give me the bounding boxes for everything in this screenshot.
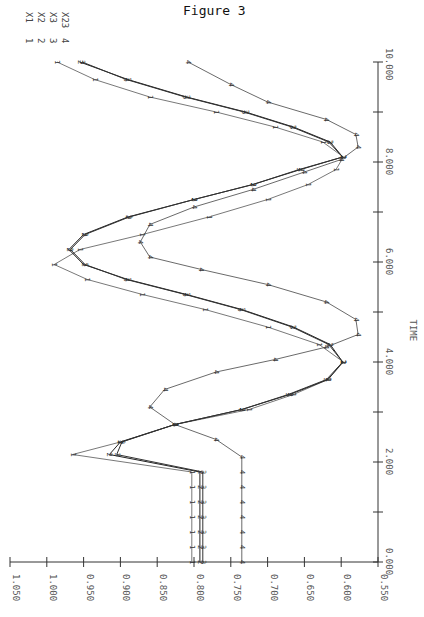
series-x23-marker: 4: [146, 405, 154, 409]
series-x1-marker: 1: [50, 263, 58, 267]
value-tick-label: 1.000: [48, 574, 58, 601]
series-x3-marker: 3: [325, 140, 333, 144]
series-x23-marker: 4: [322, 300, 330, 304]
series-x23-marker: 4: [337, 158, 345, 162]
series-x3-marker: 3: [118, 440, 126, 444]
legend-label: X23: [60, 12, 70, 28]
series-x1-marker: 1: [76, 248, 84, 252]
value-tick-label: 0.550: [379, 574, 389, 601]
value-tick-label: 0.800: [195, 574, 205, 601]
legend-number: 4: [60, 38, 70, 43]
series-x3-marker: 3: [66, 248, 74, 252]
value-tick-label: 0.650: [305, 574, 315, 601]
series-x3-marker: 3: [288, 125, 296, 129]
series-x3-marker: 3: [199, 545, 207, 549]
time-tick-label: 8.000: [384, 148, 394, 175]
series-x23-marker: 4: [249, 188, 257, 192]
legend-number: 3: [48, 38, 58, 43]
series-x1-marker: 1: [201, 308, 209, 312]
series-x1-marker: 1: [188, 545, 196, 549]
series-x23-marker: 4: [184, 60, 192, 64]
series-x23-marker: 4: [352, 133, 360, 137]
series-x23-marker: 4: [161, 388, 169, 392]
series-x1-marker: 1: [188, 500, 196, 504]
legend-number: 1: [24, 38, 34, 43]
time-axis-title: TIME: [408, 320, 418, 342]
time-tick-label: 6.000: [384, 248, 394, 275]
series-x3-marker: 3: [249, 183, 257, 187]
series-x1-marker: 1: [264, 325, 272, 329]
series-x3-marker: 3: [236, 308, 244, 312]
series-x1-marker: 1: [69, 453, 77, 457]
series-x3-marker: 3: [199, 470, 207, 474]
series-x3-marker: 3: [199, 560, 207, 564]
time-tick-label: 10.000: [384, 48, 394, 81]
series-x3-marker: 3: [322, 378, 330, 382]
series-x23-marker: 4: [227, 83, 235, 87]
series-x1-marker: 1: [188, 530, 196, 534]
series-x3-marker: 3: [181, 95, 189, 99]
legend-label: X1: [24, 12, 34, 23]
series-x1-marker: 1: [146, 95, 154, 99]
series-x23-marker: 4: [238, 470, 246, 474]
series-x23-marker: 4: [146, 255, 154, 259]
series-x3-marker: 3: [181, 293, 189, 297]
series-x23-marker: 4: [171, 423, 179, 427]
chart-legend: 1X12X23X34X23: [24, 12, 70, 43]
legend-number: 2: [36, 38, 46, 43]
series-x1-marker: 1: [332, 168, 340, 172]
series-x2-marker: 2: [105, 453, 113, 457]
series-x3-marker: 3: [122, 278, 130, 282]
series-x3-marker: 3: [78, 60, 86, 64]
series-x23-marker: 4: [352, 318, 360, 322]
series-x3-marker: 3: [199, 485, 207, 489]
series-x23-marker: 4: [212, 438, 220, 442]
series-x1-marker: 1: [83, 278, 91, 282]
plot-area: 1111111111111111111111111111111112222222…: [50, 60, 362, 564]
value-tick-label: 0.900: [121, 574, 131, 601]
series-x23-marker: 4: [271, 358, 279, 362]
series-x1-marker: 1: [53, 60, 61, 64]
series-x1-marker: 1: [315, 343, 323, 347]
series-x3-marker: 3: [339, 360, 347, 364]
series-x1-marker: 1: [212, 110, 220, 114]
line-chart: 1.0501.0000.9500.9000.8500.8000.7500.700…: [0, 0, 424, 617]
time-tick-label: 4.000: [384, 348, 394, 375]
series-x3-marker: 3: [199, 530, 207, 534]
series-x3-marker: 3: [284, 393, 292, 397]
series-x3-marker: 3: [288, 325, 296, 329]
series-x23-marker: 4: [300, 170, 308, 174]
series-x3-marker: 3: [240, 110, 248, 114]
series-x23-marker: 4: [136, 240, 144, 244]
series-x23-marker: 4: [197, 268, 205, 272]
series-x23-marker: 4: [322, 118, 330, 122]
series-x3-marker: 3: [190, 198, 198, 202]
value-tick-label: 0.700: [269, 574, 279, 601]
series-x3-marker: 3: [199, 515, 207, 519]
series-x1-marker: 1: [205, 215, 213, 219]
series-x23-marker: 4: [238, 455, 246, 459]
series-x23-marker: 4: [146, 223, 154, 227]
series-x3-marker: 3: [238, 408, 246, 412]
series-x23-marker: 4: [212, 370, 220, 374]
value-tick-label: 1.050: [11, 574, 21, 601]
time-tick-label: 0.000: [384, 548, 394, 575]
series-x3-marker: 3: [81, 263, 89, 267]
series-x23-marker: 4: [238, 545, 246, 549]
value-tick-label: 0.600: [342, 574, 352, 601]
series-x1-marker: 1: [188, 515, 196, 519]
time-tick-label: 2.000: [384, 448, 394, 475]
series-x23-marker: 4: [238, 485, 246, 489]
value-tick-label: 0.750: [232, 574, 242, 601]
series-x23-marker: 4: [190, 205, 198, 209]
series-x3-marker: 3: [113, 453, 121, 457]
series-x23-marker: 4: [238, 530, 246, 534]
series-x1-marker: 1: [188, 560, 196, 564]
series-x1-marker: 1: [91, 78, 99, 82]
series-x1-marker: 1: [304, 183, 312, 187]
legend-label: X2: [36, 12, 46, 23]
series-x1-marker: 1: [138, 293, 146, 297]
series-x3-marker: 3: [125, 215, 133, 219]
series-x23-marker: 4: [264, 100, 272, 104]
series-x23-marker: 4: [238, 515, 246, 519]
